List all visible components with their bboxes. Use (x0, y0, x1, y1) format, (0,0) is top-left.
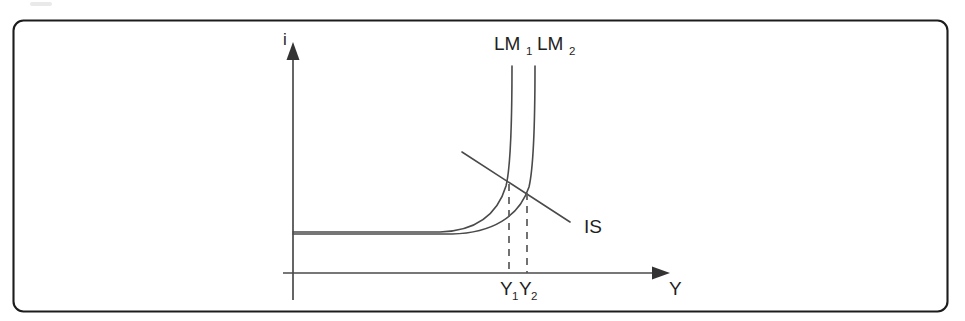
lm1-label: LM (494, 33, 520, 54)
y2-label-subscript: 2 (531, 290, 537, 302)
i-axis-label: i (283, 30, 287, 49)
is-lm-figure: i Y LM 1 LM 2 IS Y 1 Y 2 (0, 0, 965, 321)
y1-label-subscript: 1 (512, 290, 518, 302)
is-label: IS (584, 216, 602, 237)
lm1-label-subscript: 1 (526, 45, 532, 57)
figure-frame (14, 21, 948, 312)
lm2-label-subscript: 2 (569, 45, 575, 57)
is-lm-diagram-canvas: i Y LM 1 LM 2 IS Y 1 Y 2 (0, 0, 965, 321)
y-axis-label: Y (669, 278, 682, 299)
lm2-label: LM (537, 33, 563, 54)
scan-artifact (30, 2, 52, 6)
